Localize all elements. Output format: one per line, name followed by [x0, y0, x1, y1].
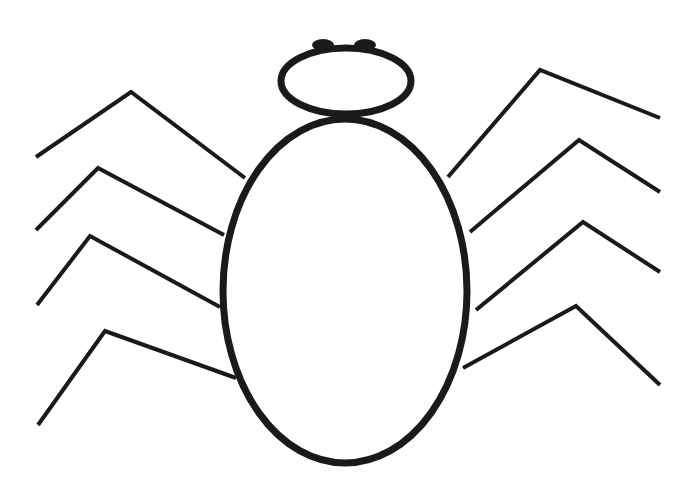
spider-leg-right-2: [470, 140, 660, 232]
spider-leg-left-4: [38, 331, 236, 425]
spider-leg-left-3: [37, 236, 220, 307]
spider-eye-1: [312, 39, 334, 51]
spider-drawing: [0, 0, 700, 493]
spider-body: [223, 119, 467, 463]
spider-leg-left-1: [36, 92, 245, 178]
spider-leg-left-2: [36, 168, 224, 235]
spider-leg-right-3: [476, 222, 660, 310]
spider-leg-right-4: [463, 306, 660, 385]
spider-head: [281, 48, 411, 114]
spider-eye-2: [354, 39, 376, 51]
